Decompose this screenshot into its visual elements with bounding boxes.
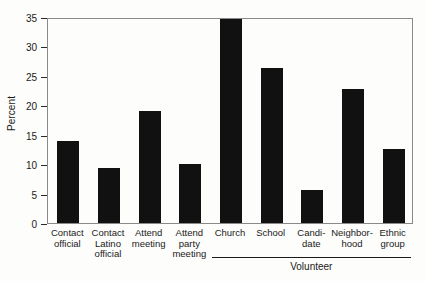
bar (220, 19, 242, 223)
bar (383, 149, 405, 223)
y-tick-label-5: 5 (7, 189, 37, 200)
plot-area (47, 18, 413, 224)
y-tick-label-0: 0 (7, 219, 37, 230)
x-tick-label: Ethnic group (366, 228, 419, 249)
y-tick-label-35: 35 (7, 13, 37, 24)
bar (179, 164, 201, 223)
bar (301, 190, 323, 223)
y-tick-label-20: 20 (7, 101, 37, 112)
bar (57, 141, 79, 223)
y-tick-label-25: 25 (7, 71, 37, 82)
bar (98, 168, 120, 223)
group-bracket-label: Volunteer (212, 261, 411, 272)
y-tick-label-30: 30 (7, 42, 37, 53)
bar (342, 89, 364, 223)
bar-chart-figure: Percent 05101520253035 Contact officialC… (0, 0, 425, 281)
bar (261, 68, 283, 223)
y-tick-mark-0 (41, 224, 47, 225)
group-bracket-rule (212, 257, 411, 258)
y-tick-label-15: 15 (7, 130, 37, 141)
y-tick-label-10: 10 (7, 160, 37, 171)
bar (139, 111, 161, 223)
